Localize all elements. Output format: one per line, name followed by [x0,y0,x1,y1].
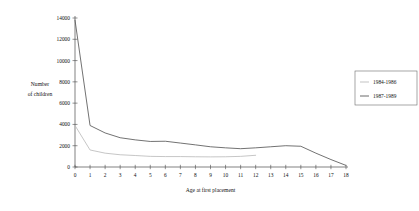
y-tick-label: 10000 [57,58,71,64]
x-tick-label: 1 [89,172,92,178]
x-tick-label: 4 [134,172,137,178]
x-tick-label: 18 [343,172,349,178]
chart-legend: 1984-19861987-1989 [355,71,417,105]
y-axis-title-line1: Number [31,81,49,87]
y-tick-label: 6000 [59,100,70,106]
legend-box [355,71,417,105]
x-tick-label: 15 [298,172,304,178]
y-axis-ticks: 02000400060008000100001200014000 [57,15,78,170]
chart-axes [75,16,348,167]
x-tick-label: 17 [328,172,334,178]
y-axis-title-line2: of children [28,91,53,97]
y-tick-label: 12000 [57,36,71,42]
chart-series-group [75,20,346,165]
x-tick-label: 3 [119,172,122,178]
y-tick-label: 4000 [59,121,70,127]
x-tick-label: 11 [238,172,243,178]
x-tick-label: 7 [179,172,182,178]
legend-label-1987-1989: 1987-1989 [373,93,397,99]
y-tick-label: 0 [67,164,70,170]
y-tick-label: 8000 [59,79,70,85]
y-tick-label: 14000 [57,15,71,21]
x-tick-label: 6 [164,172,167,178]
x-tick-label: 5 [149,172,152,178]
x-tick-label: 16 [313,172,319,178]
x-tick-label: 0 [74,172,77,178]
x-tick-label: 14 [283,172,289,178]
chart-figure: 0200040006000800010000120001400001234567… [0,0,419,211]
x-tick-label: 13 [268,172,274,178]
y-tick-label: 2000 [59,143,70,149]
x-tick-label: 9 [209,172,212,178]
series-line-1987-1989 [75,20,346,165]
line-chart: 0200040006000800010000120001400001234567… [0,0,419,211]
x-tick-label: 8 [194,172,197,178]
legend-label-1984-1986: 1984-1986 [373,79,397,85]
x-tick-label: 10 [223,172,229,178]
x-axis-title: Age at first placement [186,187,236,193]
x-tick-label: 2 [104,172,107,178]
x-tick-label: 12 [253,172,259,178]
